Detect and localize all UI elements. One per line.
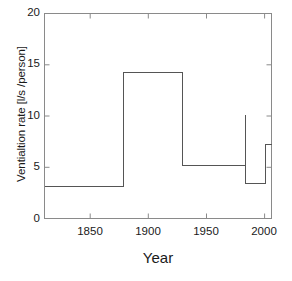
ventilation-rate-step-line [45,73,272,187]
axes-frame [45,14,272,219]
ventilation-rate-chart: Ventialtion rate [l/s /person] 20 15 10 … [0,0,292,281]
plot-area [0,0,292,281]
y-axis-ticks [45,14,272,219]
x-axis-label: Year [44,249,272,266]
x-axis-ticks [90,14,264,219]
